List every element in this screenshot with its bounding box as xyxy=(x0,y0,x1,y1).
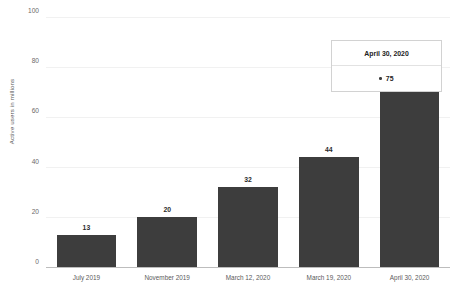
bar-value-label: 20 xyxy=(127,206,208,213)
x-axis-category-label: March 19, 2020 xyxy=(288,274,369,281)
x-axis-category-label: March 12, 2020 xyxy=(208,274,289,281)
bar-group[interactable]: 13July 2019 xyxy=(46,18,127,267)
x-axis-category-label: April 30, 2020 xyxy=(369,274,450,281)
bar-value-label: 44 xyxy=(288,146,369,153)
bar-group[interactable]: 20November 2019 xyxy=(127,18,208,267)
bar[interactable] xyxy=(299,157,359,267)
bar-chart: Active users in millions 020406080100 13… xyxy=(0,0,458,300)
bar-group[interactable]: 32March 12, 2020 xyxy=(208,18,289,267)
tooltip: April 30, 2020 75 xyxy=(331,40,442,92)
bar[interactable] xyxy=(218,187,278,267)
y-axis-tick-label: 100 xyxy=(28,7,39,14)
y-axis-tick-label: 0 xyxy=(35,258,39,265)
bar[interactable] xyxy=(380,80,440,267)
x-axis-line xyxy=(46,267,450,268)
bar-value-label: 32 xyxy=(208,176,289,183)
y-axis-tick-label: 80 xyxy=(32,57,39,64)
y-axis-tick-label: 40 xyxy=(32,157,39,164)
tooltip-value: 75 xyxy=(386,75,394,82)
y-axis-title: Active users in millions xyxy=(8,57,15,167)
tooltip-body: 75 xyxy=(332,66,441,91)
x-axis-category-label: July 2019 xyxy=(46,274,127,281)
tooltip-header: April 30, 2020 xyxy=(332,41,441,66)
bar[interactable] xyxy=(57,235,117,267)
y-axis-tick-label: 20 xyxy=(32,207,39,214)
bar[interactable] xyxy=(137,217,197,267)
bar-value-label: 13 xyxy=(46,224,127,231)
x-axis-category-label: November 2019 xyxy=(127,274,208,281)
y-axis-tick-label: 60 xyxy=(32,107,39,114)
bullet-dot-icon xyxy=(379,77,381,79)
